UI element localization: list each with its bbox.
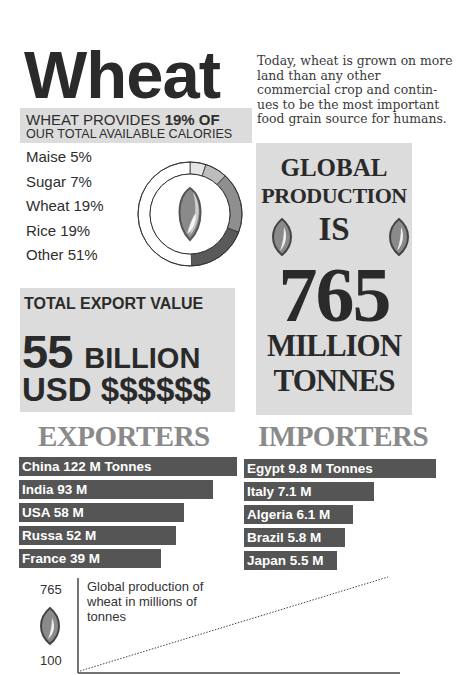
wheat-grain-icon — [387, 217, 411, 257]
calories-subline: OUR TOTAL AVAILABLE CALORIES — [26, 127, 232, 141]
calories-headline: WHEAT PROVIDES 19% OF — [26, 111, 220, 128]
importer-bar: Algeria 6.1 M — [244, 505, 353, 524]
wheat-grain-icon — [37, 606, 63, 646]
production-trend-line — [80, 577, 388, 671]
importer-bar: Italy 7.1 M — [244, 482, 374, 501]
exporter-bar: France 39 M — [19, 549, 161, 568]
importer-bar: Egypt 9.8 M Tonnes — [244, 459, 436, 478]
production-line-global: GLOBAL — [256, 154, 412, 182]
exporters-bar-list: China 122 M Tonnes India 93 M USA 58 M R… — [19, 457, 237, 568]
legend-item-maise: Maise 5% — [26, 147, 104, 172]
legend-item-wheat: Wheat 19% — [26, 196, 104, 221]
production-line-chart — [70, 572, 400, 675]
production-line-million: MILLION — [256, 328, 412, 364]
y-axis-max-label: 765 — [40, 582, 62, 597]
page-title: Wheat — [24, 40, 220, 110]
y-axis-min-label: 100 — [40, 653, 62, 668]
exporter-bar: China 122 M Tonnes — [19, 457, 237, 476]
exporter-bar: USA 58 M — [19, 503, 184, 522]
export-amount-unit: BILLION — [84, 342, 200, 374]
export-value-title: TOTAL EXPORT VALUE — [24, 295, 203, 313]
legend-item-other: Other 51% — [26, 245, 104, 270]
importer-bar: Japan 5.5 M — [244, 551, 337, 570]
intro-paragraph: Today, wheat is grown on more land than … — [257, 54, 457, 127]
importers-bar-list: Egypt 9.8 M Tonnes Italy 7.1 M Algeria 6… — [244, 459, 436, 570]
exporter-bar: India 93 M — [19, 480, 213, 499]
production-number: 765 — [256, 254, 412, 336]
production-line-production: PRODUCTION — [256, 183, 412, 209]
calories-headline-prefix: WHEAT PROVIDES — [26, 111, 165, 128]
calories-legend: Maise 5% Sugar 7% Wheat 19% Rice 19% Oth… — [26, 147, 104, 270]
exporters-heading: EXPORTERS — [38, 420, 210, 453]
export-currency-line: USD $$$$$$ — [22, 371, 211, 409]
legend-item-rice: Rice 19% — [26, 221, 104, 246]
production-line-tonnes: TONNES — [256, 363, 412, 399]
exporter-bar: Russa 52 M — [19, 526, 176, 545]
calories-headline-highlight: 19% OF — [165, 111, 220, 128]
calories-donut-chart — [132, 147, 248, 281]
legend-item-sugar: Sugar 7% — [26, 172, 104, 197]
importers-heading: IMPORTERS — [258, 420, 428, 453]
importer-bar: Brazil 5.8 M — [244, 528, 345, 547]
